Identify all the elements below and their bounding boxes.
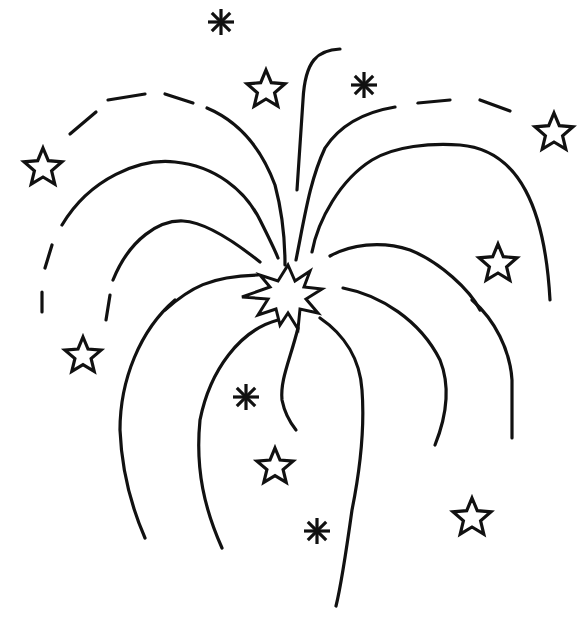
asterisk-icon	[351, 72, 377, 98]
arc-left-4	[165, 275, 258, 310]
trail-top-center	[297, 49, 340, 190]
star-icon	[257, 448, 293, 482]
dashed-arc-right-1	[418, 100, 450, 103]
arc-left-2	[62, 162, 278, 258]
curve-center-hook	[282, 328, 298, 430]
dash-left-mid	[106, 295, 110, 320]
curve-right-lower	[320, 318, 363, 606]
fireworks-drawing	[0, 0, 584, 618]
star-icon	[535, 113, 573, 149]
arc-right-3	[330, 245, 480, 310]
asterisk-icon	[208, 9, 234, 35]
asterisk-icon	[304, 518, 330, 544]
curve-right-far	[472, 300, 512, 438]
star-icon	[479, 244, 517, 280]
curve-lower-left-1	[120, 300, 175, 538]
dashed-arc-right-2	[480, 100, 510, 111]
star-icon	[453, 498, 491, 534]
dashed-arc-left-2	[108, 94, 145, 100]
star-icon	[247, 70, 285, 106]
arc-right-2	[312, 144, 550, 300]
arc-left-outer	[207, 108, 285, 265]
dashed-arc-left-1	[70, 112, 96, 134]
asterisk-icon	[233, 384, 259, 410]
star-icon	[24, 148, 62, 184]
curve-lower-left-2	[199, 320, 278, 548]
dash-left-vertical	[45, 245, 52, 268]
dashed-arc-left-3	[165, 94, 193, 103]
arc-left-3	[113, 221, 260, 280]
star-icon	[65, 337, 101, 371]
